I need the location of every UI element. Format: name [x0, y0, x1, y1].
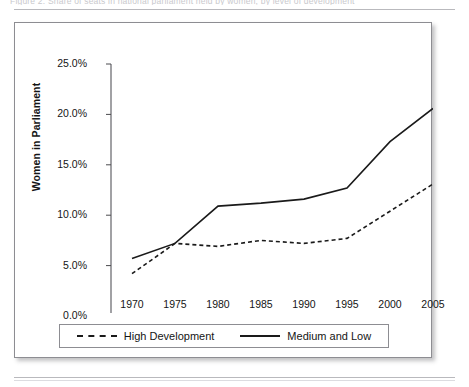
series-line-medium-and-low: [132, 108, 433, 258]
chart-figure: Women in Parliament 0.0%5.0%10.0%15.0%20…: [14, 22, 432, 358]
chart-svg: [15, 23, 433, 313]
plot-area: Women in Parliament 0.0%5.0%10.0%15.0%20…: [15, 23, 433, 313]
page-rule-top: [14, 9, 455, 10]
y-axis-ticks: [106, 64, 111, 313]
dashed-line-icon: [77, 335, 117, 337]
solid-line-icon: [240, 335, 280, 337]
legend-label: High Development: [124, 330, 215, 342]
series-line-high-development: [132, 184, 433, 274]
cut-off-caption: Figure 2. Share of seats in national par…: [10, 0, 459, 5]
legend-item-medium-and-low: Medium and Low: [240, 330, 371, 342]
page-rule-bottom: [14, 377, 455, 378]
chart-legend: High Development Medium and Low: [59, 324, 389, 348]
page-rule-bottom-secondary: [14, 380, 455, 381]
legend-item-high-development: High Development: [77, 330, 215, 342]
legend-label: Medium and Low: [287, 330, 371, 342]
axes-group: [106, 64, 433, 313]
series-group: [132, 108, 433, 273]
